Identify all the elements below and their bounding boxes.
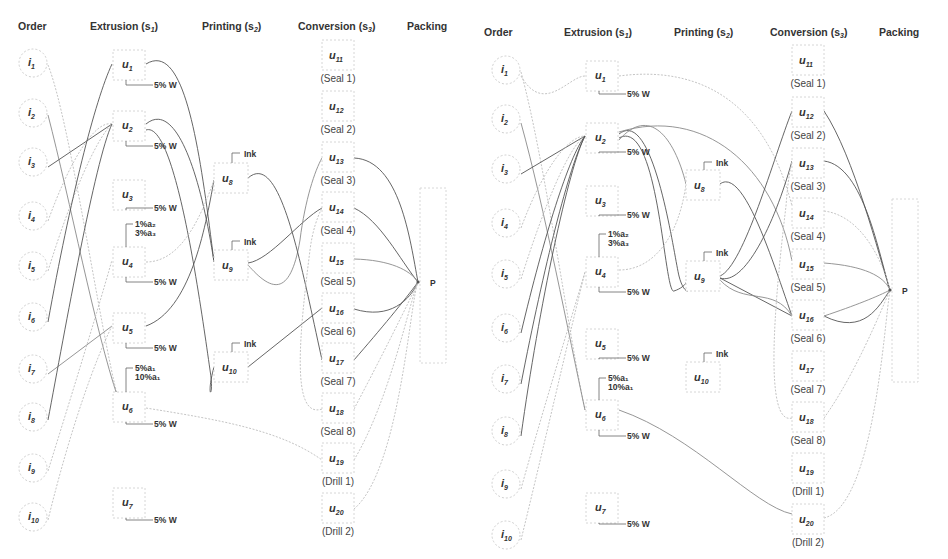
converter-node-u11[interactable]: u11(Seal 1)	[320, 40, 355, 84]
extruder-node-u7[interactable]: u75% W	[586, 493, 651, 529]
converter-node-u14[interactable]: u14(Seal 4)	[320, 192, 355, 236]
extruder-node-u3[interactable]: u35% W	[586, 186, 651, 220]
waste-bracket	[126, 141, 153, 146]
packing-node[interactable]: P	[416, 188, 446, 363]
converter-node-u12[interactable]: u12(Seal 2)	[790, 97, 825, 141]
waste-note: 5% W	[627, 147, 651, 157]
printer-node-u9[interactable]: u9Ink	[686, 248, 729, 291]
unit-box	[214, 163, 248, 193]
order-node-i6[interactable]: i6	[492, 314, 520, 342]
waste-note: 5% W	[627, 210, 651, 220]
waste-note: 5% W	[627, 519, 651, 529]
edges	[521, 72, 890, 540]
order-node-i9[interactable]: i9	[492, 470, 520, 498]
flow-edge	[619, 410, 792, 514]
additive-note: 10%a₁	[135, 372, 161, 382]
ink-note: Ink	[244, 237, 257, 247]
converter-node-u19[interactable]: u19(Drill 1)	[322, 443, 354, 487]
order-node-i8[interactable]: i8	[492, 417, 520, 445]
converter-node-u19[interactable]: u19(Drill 1)	[792, 453, 824, 497]
converter-node-u14[interactable]: u14(Seal 4)	[790, 198, 825, 242]
extruder-node-u5[interactable]: u55% W	[113, 313, 178, 353]
converter-node-u13[interactable]: u13(Seal 3)	[320, 142, 355, 186]
unit-box	[792, 351, 824, 381]
extruder-node-u6[interactable]: u65% W5%a₁10%a₁	[586, 373, 651, 441]
order-node-i5[interactable]: i5	[492, 260, 520, 288]
flow-edge	[824, 290, 890, 418]
order-node-i3[interactable]: i3	[19, 148, 47, 176]
machine-caption: (Seal 4)	[790, 231, 825, 242]
order-node-i8[interactable]: i8	[19, 403, 47, 431]
converter-node-u17[interactable]: u17(Seal 7)	[320, 343, 355, 387]
unit-box	[792, 198, 824, 228]
order-node-i4[interactable]: i4	[492, 209, 520, 237]
converter-node-u20[interactable]: u20(Drill 2)	[322, 493, 354, 537]
machine-caption: (Seal 1)	[790, 78, 825, 89]
flow-edge	[248, 308, 322, 367]
order-node-i10[interactable]: i10	[492, 521, 520, 549]
unit-box	[214, 250, 248, 280]
extruder-node-u1[interactable]: u15% W	[586, 61, 651, 99]
unit-box	[322, 443, 354, 473]
converter-node-u15[interactable]: u15(Seal 5)	[790, 249, 825, 293]
printer-node-u10[interactable]: u10Ink	[686, 349, 729, 392]
flow-edge	[720, 278, 792, 316]
extruder-node-u4[interactable]: u45% W1%a₂3%a₃	[586, 229, 651, 297]
machine-caption: (Seal 8)	[320, 426, 355, 437]
unit-box	[322, 40, 354, 70]
unit-box	[322, 192, 354, 222]
converter-node-u13[interactable]: u13(Seal 3)	[790, 148, 825, 192]
converter-node-u16[interactable]: u16(Seal 6)	[790, 300, 825, 344]
converter-node-u16[interactable]: u16(Seal 6)	[320, 293, 355, 337]
order-node-i3[interactable]: i3	[492, 155, 520, 183]
machine-caption: (Seal 7)	[790, 384, 825, 395]
column-header-extrusion: Extrusion (s1)	[90, 20, 158, 33]
order-node-i7[interactable]: i7	[19, 355, 47, 383]
packing-node[interactable]: P	[888, 199, 918, 382]
machine-caption: (Seal 3)	[320, 175, 355, 186]
converter-node-u17[interactable]: u17(Seal 7)	[790, 351, 825, 395]
order-node-i2[interactable]: i2	[492, 105, 520, 133]
printer-node-u10[interactable]: u10Ink	[214, 339, 257, 382]
flow-edge	[354, 282, 418, 409]
converter-node-u11[interactable]: u11(Seal 1)	[790, 45, 825, 89]
converter-node-u15[interactable]: u15(Seal 5)	[320, 243, 355, 287]
extruder-node-u3[interactable]: u35% W	[113, 180, 178, 213]
flow-edge	[48, 124, 112, 167]
order-node-i4[interactable]: i4	[19, 202, 47, 230]
printer-node-u8[interactable]: u8Ink	[214, 149, 257, 193]
printer-node-u8[interactable]: u8Ink	[686, 158, 729, 200]
extruder-node-u2[interactable]: u25% W	[113, 111, 178, 151]
ink-bracket	[704, 353, 712, 362]
order-node-i6[interactable]: i6	[19, 303, 47, 331]
flow-edge	[48, 64, 112, 322]
order-node-i1[interactable]: i1	[492, 56, 520, 84]
order-node-i5[interactable]: i5	[19, 252, 47, 280]
order-node-i7[interactable]: i7	[492, 365, 520, 393]
machine-caption: (Seal 6)	[320, 326, 355, 337]
converter-node-u18[interactable]: u18(Seal 8)	[790, 402, 825, 446]
converter-node-u12[interactable]: u12(Seal 2)	[320, 91, 355, 135]
flow-edge	[248, 208, 322, 263]
waste-note: 5% W	[154, 419, 178, 429]
extruder-node-u1[interactable]: u15% W	[113, 50, 178, 90]
flow-edge	[824, 290, 890, 518]
extruder-node-u7[interactable]: u75% W	[113, 488, 178, 525]
waste-note: 5% W	[154, 343, 178, 353]
extruder-node-u5[interactable]: u55% W	[586, 329, 651, 363]
converter-node-u20[interactable]: u20(Drill 2)	[792, 504, 824, 548]
waste-bracket	[126, 80, 153, 85]
extruder-node-u4[interactable]: u45% W1%a₂3%a₃	[113, 219, 178, 287]
order-node-i9[interactable]: i9	[19, 454, 47, 482]
flow-edge	[146, 61, 214, 262]
unit-box	[792, 45, 824, 75]
extruder-node-u6[interactable]: u65% W5%a₁10%a₁	[113, 363, 178, 429]
order-node-i1[interactable]: i1	[19, 49, 47, 77]
converter-node-u18[interactable]: u18(Seal 8)	[320, 393, 355, 437]
printer-node-u9[interactable]: u9Ink	[214, 237, 257, 280]
machine-caption: (Drill 2)	[322, 526, 354, 537]
order-node-i10[interactable]: i10	[19, 503, 47, 531]
order-node-i2[interactable]: i2	[19, 99, 47, 127]
flow-edge	[354, 208, 418, 282]
machine-caption: (Drill 2)	[792, 537, 824, 548]
